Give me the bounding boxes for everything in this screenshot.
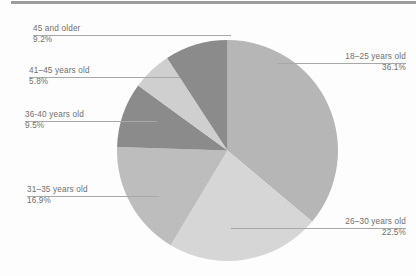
leader-line-26-30-years-old: [231, 228, 406, 229]
leader-line-36-40-years-old: [25, 121, 157, 122]
pie-label-percent: 16.9%: [27, 196, 88, 207]
leader-line-31-35-years-old: [27, 196, 159, 197]
leader-line-45-and-older: [33, 35, 231, 36]
pie-label-percent: 36.1%: [345, 63, 406, 74]
pie-label-category: 18–25 years old: [345, 52, 406, 63]
pie-label-category: 36-40 years old: [25, 110, 84, 121]
pie-label-percent: 9.2%: [33, 35, 81, 46]
pie-label-percent: 9.5%: [25, 121, 84, 132]
pie-label-percent: 22.5%: [345, 228, 406, 239]
pie-label-category: 26–30 years old: [345, 217, 406, 228]
pie-label-category: 45 and older: [33, 24, 81, 35]
leader-line-18-25-years-old: [277, 63, 406, 64]
pie-label-category: 41–45 years old: [29, 66, 90, 77]
pie-chart-figure: 45 and older 9.2% 41–45 years old 5.8% 3…: [0, 0, 416, 276]
leader-line-41-45-years-old: [29, 77, 180, 78]
pie-label-percent: 5.8%: [29, 77, 90, 88]
pie-label-category: 31–35 years old: [27, 185, 88, 196]
